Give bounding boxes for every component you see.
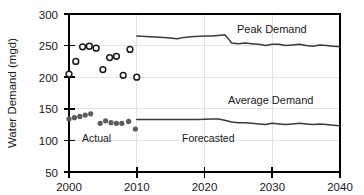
chart-plot-area: 300 250 200 150 100 50 2000 2010 2020 20… (0, 0, 364, 195)
y-tick-label-150: 150 (39, 103, 58, 115)
x-tick-label-2030: 2030 (259, 181, 285, 193)
data-point-average-demand (83, 113, 88, 118)
data-point-average-demand (98, 121, 103, 126)
data-point-peak-demand (93, 45, 99, 51)
x-tick-label-2000: 2000 (56, 181, 82, 193)
forecast-lines (137, 35, 340, 126)
data-point-average-demand (114, 121, 119, 126)
y-tick-label-50: 50 (45, 167, 58, 179)
data-point-peak-demand (100, 67, 106, 73)
data-point-average-demand (133, 126, 138, 131)
forecast-line-peak-demand (137, 35, 340, 47)
data-point-average-demand (88, 111, 93, 116)
data-point-peak-demand (114, 53, 120, 59)
water-demand-chart: 300 250 200 150 100 50 2000 2010 2020 20… (0, 0, 364, 195)
data-point-peak-demand (107, 55, 113, 61)
data-point-peak-demand (134, 74, 140, 80)
data-point-peak-demand (120, 72, 126, 78)
data-point-peak-demand (73, 59, 79, 65)
data-point-average-demand (72, 115, 77, 120)
y-axis-tick-labels: 300 250 200 150 100 50 (39, 9, 58, 179)
y-axis-title: Water Demand (mgd) (6, 38, 18, 148)
x-tick-label-2010: 2010 (124, 181, 150, 193)
forecast-line-average-demand (137, 119, 340, 126)
data-point-peak-demand (66, 71, 72, 77)
data-point-average-demand (66, 116, 71, 121)
y-tick-label-100: 100 (39, 135, 58, 147)
data-point-average-demand (77, 114, 82, 119)
data-point-average-demand (119, 121, 124, 126)
forecasted-region-label: Forecasted (182, 132, 235, 144)
peak-demand-label: Peak Demand (237, 23, 307, 35)
data-point-average-demand (108, 120, 113, 125)
y-tick-label-200: 200 (39, 72, 58, 84)
data-point-average-demand (103, 118, 108, 123)
actual-data-markers (66, 43, 140, 131)
y-tick-label-300: 300 (39, 9, 58, 21)
actual-region-label: Actual (82, 132, 111, 144)
y-tick-label-250: 250 (39, 40, 58, 52)
data-point-peak-demand (127, 46, 133, 52)
data-point-peak-demand (86, 43, 92, 49)
data-point-peak-demand (80, 44, 86, 50)
x-axis-tick-labels: 2000 2010 2020 2030 2040 (56, 181, 353, 193)
data-point-average-demand (126, 119, 131, 124)
x-tick-label-2040: 2040 (327, 181, 353, 193)
average-demand-label: Average Demand (228, 94, 313, 106)
x-tick-label-2020: 2020 (192, 181, 218, 193)
